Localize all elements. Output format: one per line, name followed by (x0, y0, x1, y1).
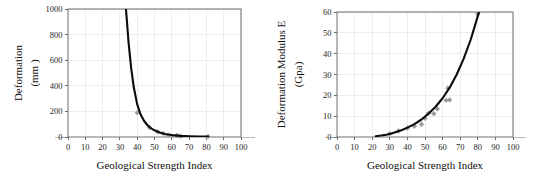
fitted-curve (126, 9, 208, 137)
y-tick-label: 200 (50, 106, 63, 116)
deformation-vs-gsi-chart: 020040060080010000102030405060708090100G… (0, 0, 270, 189)
x-tick-label: 70 (456, 142, 465, 152)
x-tick-label: 70 (185, 142, 194, 152)
x-tick-label: 30 (116, 142, 125, 152)
x-tick-label: 60 (438, 142, 447, 152)
x-tick-label: 100 (235, 142, 248, 152)
y-axis-units: (mm ) (28, 59, 41, 87)
y-tick-label: 1000 (46, 4, 63, 14)
data-point-marker (447, 98, 452, 103)
y-tick-label: 50 (323, 28, 332, 38)
y-axis-title: Deformation (12, 44, 24, 101)
deformation-chart-canvas: 020040060080010000102030405060708090100G… (0, 0, 270, 189)
x-tick-label: 30 (386, 142, 395, 152)
x-tick-label: 90 (219, 142, 228, 152)
x-tick-label: 90 (491, 142, 500, 152)
x-axis-title: Geological Strength Index (367, 159, 484, 171)
y-tick-label: 0 (58, 132, 62, 142)
deformation-modulus-vs-gsi-chart: 01020304050600102030405060708090100Geolo… (270, 0, 540, 189)
y-tick-label: 40 (323, 49, 332, 59)
x-tick-label: 10 (81, 142, 90, 152)
x-tick-label: 50 (421, 142, 430, 152)
y-axis-title: Deformation Modulus E (275, 20, 287, 128)
y-tick-label: 600 (50, 55, 63, 65)
x-tick-label: 80 (474, 142, 483, 152)
y-tick-label: 400 (50, 81, 63, 91)
y-tick-label: 60 (323, 7, 332, 17)
x-tick-label: 20 (368, 142, 377, 152)
x-tick-label: 20 (98, 142, 107, 152)
x-tick-label: 100 (507, 142, 520, 152)
y-tick-label: 10 (323, 111, 332, 121)
x-tick-label: 0 (335, 142, 339, 152)
y-tick-label: 20 (323, 90, 332, 100)
x-tick-label: 40 (133, 142, 142, 152)
deformation-modulus-chart-canvas: 01020304050600102030405060708090100Geolo… (270, 0, 540, 189)
x-tick-label: 80 (202, 142, 211, 152)
y-tick-label: 0 (327, 132, 331, 142)
x-axis-title: Geological Strength Index (96, 159, 213, 171)
two-panel-figure: 020040060080010000102030405060708090100G… (0, 0, 540, 189)
y-tick-label: 30 (323, 70, 332, 80)
x-tick-label: 10 (350, 142, 359, 152)
x-tick-label: 0 (66, 142, 70, 152)
x-tick-label: 50 (150, 142, 159, 152)
x-tick-label: 60 (168, 142, 177, 152)
data-point-marker (431, 111, 436, 116)
x-tick-label: 40 (403, 142, 412, 152)
y-axis-units: (Gpa) (292, 61, 305, 87)
data-point-marker (419, 122, 424, 127)
y-tick-label: 800 (50, 30, 63, 40)
